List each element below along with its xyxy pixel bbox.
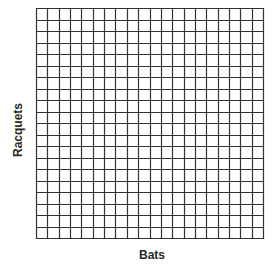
x-axis-label: Bats bbox=[139, 248, 165, 262]
grid-plot-area bbox=[0, 0, 279, 272]
y-axis-label: Racquets bbox=[11, 103, 25, 157]
